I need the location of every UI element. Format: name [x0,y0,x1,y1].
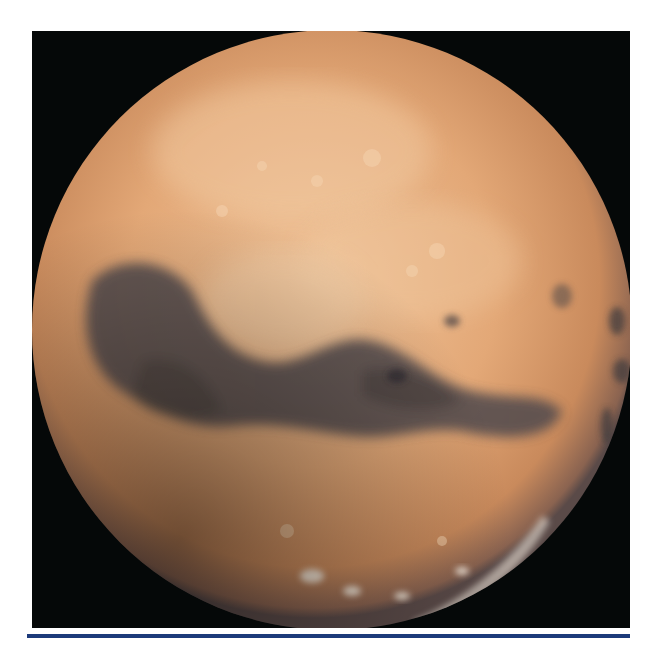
mars-photograph [32,31,630,628]
mars-planet-illustration [32,31,630,628]
divider-rule [27,634,630,638]
